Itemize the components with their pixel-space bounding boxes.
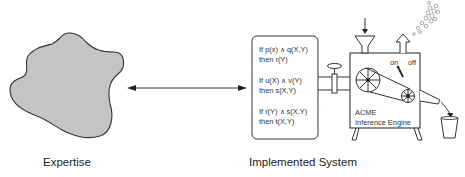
input-funnel (355, 36, 375, 53)
input-arrow (362, 18, 368, 34)
expertise-blob (10, 33, 124, 138)
output-chute (420, 90, 440, 104)
output-arrow (441, 102, 453, 118)
exhaust-arrow-icon (396, 34, 410, 53)
rule-2: If u(X) ∧ v(Y) then s(X,Y) (259, 76, 302, 96)
engine-brand-label: ACME (355, 108, 376, 117)
engine-legs (352, 128, 422, 140)
output-bucket (441, 118, 458, 138)
switch-off-label: off (408, 58, 416, 67)
diagram-canvas (0, 0, 465, 177)
rule-3-then: then t(X,Y) (259, 117, 307, 127)
small-gear-wheel (402, 90, 415, 103)
rule-2-if: If u(X) ∧ v(Y) (259, 76, 302, 86)
rule-3: If r(Y) ∧ s(X,Y) then t(X,Y) (259, 107, 307, 127)
bidirectional-arrow (127, 85, 247, 91)
rule-3-if: If r(Y) ∧ s(X,Y) (259, 107, 307, 117)
engine-name-label: Inference Engine (355, 118, 411, 127)
rule-1-then: then r(Y) (259, 55, 308, 65)
rule-2-then: then s(X,Y) (259, 86, 302, 96)
pipe-valve (318, 64, 350, 94)
switch-on-label: on (390, 58, 398, 67)
implemented-system-caption: Implemented System (249, 156, 357, 168)
smoke-cloud (413, 2, 440, 36)
large-gear-wheel (356, 68, 380, 92)
rule-1: If p(x) ∧ q(X,Y) then r(Y) (259, 45, 308, 65)
rule-1-if: If p(x) ∧ q(X,Y) (259, 45, 308, 55)
expertise-caption: Expertise (43, 156, 91, 168)
